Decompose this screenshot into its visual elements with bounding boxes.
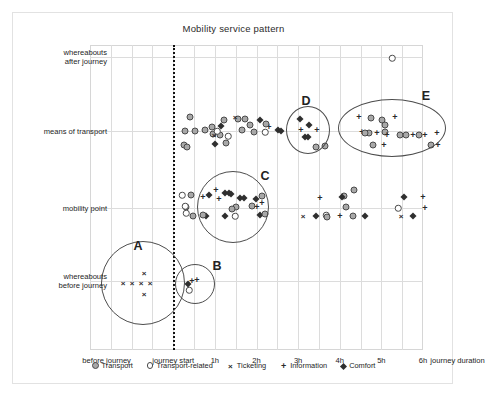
data-point-transport bbox=[351, 187, 358, 194]
y-axis-label-4: whereaboutsafter journey bbox=[0, 48, 107, 67]
legend-item-ticketing[interactable]: ×Ticketing bbox=[227, 361, 266, 371]
data-point-transport-related bbox=[225, 133, 232, 140]
data-point-transport bbox=[263, 121, 270, 128]
data-point-ticketing: × bbox=[232, 114, 239, 121]
legend-item-information[interactable]: +Information bbox=[280, 361, 327, 371]
data-point-information: + bbox=[317, 195, 324, 202]
data-point-transport bbox=[184, 144, 191, 151]
data-point-ticketing: × bbox=[398, 213, 405, 220]
legend-item-label: Information bbox=[290, 361, 327, 370]
cluster-outline-e bbox=[338, 99, 446, 157]
data-point-transport-related bbox=[182, 203, 189, 210]
data-point-transport bbox=[251, 129, 258, 136]
figure-container: Mobility service pattern ××+++++++++++++… bbox=[12, 12, 453, 384]
cluster-label-d: D bbox=[301, 94, 310, 108]
y-axis-label-line1: whereabouts bbox=[0, 272, 107, 281]
plot-area: ××++++++++++++++++++×++×++××××××++ ABCDE bbox=[90, 45, 423, 350]
chart-legend: TransportTransport-related×Ticketing+Inf… bbox=[13, 361, 454, 371]
cluster-label-b: B bbox=[212, 259, 221, 273]
data-point-transport-related bbox=[389, 55, 396, 62]
vertical-gridline bbox=[298, 45, 299, 350]
data-point-transport bbox=[188, 192, 195, 199]
cluster-outline-a bbox=[101, 241, 185, 325]
data-point-transport bbox=[92, 362, 99, 369]
y-axis-label-3: means of transport bbox=[0, 127, 107, 136]
data-point-transport bbox=[182, 128, 189, 135]
y-axis-label-line2: before journey bbox=[0, 281, 107, 290]
data-point-ticketing: × bbox=[227, 363, 234, 370]
horizontal-gridline bbox=[90, 57, 423, 58]
data-point-transport-related bbox=[147, 362, 154, 369]
y-axis-label-line1: mobility point bbox=[0, 204, 107, 213]
legend-item-label: Ticketing bbox=[237, 361, 266, 370]
legend-marker-icon bbox=[341, 362, 346, 371]
vertical-gridline bbox=[277, 45, 278, 350]
data-point-transport-related bbox=[183, 210, 190, 217]
data-point-transport bbox=[239, 127, 246, 134]
vertical-gridline bbox=[194, 45, 195, 350]
y-axis-label-line1: means of transport bbox=[0, 127, 107, 136]
y-axis-label-line1: whereabouts bbox=[0, 48, 107, 57]
data-point-information: + bbox=[337, 213, 344, 220]
legend-marker-icon: + bbox=[280, 362, 287, 371]
data-point-transport bbox=[223, 140, 230, 147]
data-point-transport bbox=[202, 127, 209, 134]
data-point-transport-related bbox=[179, 192, 186, 199]
data-point-transport bbox=[190, 213, 197, 220]
data-point-information: + bbox=[280, 363, 287, 370]
legend-item-comfort[interactable]: Comfort bbox=[341, 361, 375, 371]
cluster-outline-d bbox=[286, 106, 330, 154]
y-axis-label-1: whereaboutsbefore journey bbox=[0, 272, 107, 291]
cluster-label-e: E bbox=[422, 89, 430, 103]
vertical-gridline bbox=[381, 45, 382, 350]
legend-item-label: Transport-related bbox=[156, 361, 212, 370]
vertical-gridline bbox=[361, 45, 362, 350]
legend-marker-icon bbox=[92, 362, 99, 371]
data-point-transport bbox=[324, 214, 331, 221]
data-point-transport bbox=[187, 114, 194, 121]
cluster-outline-b bbox=[175, 264, 215, 304]
data-point-transport-related bbox=[262, 129, 269, 136]
data-point-ticketing: × bbox=[300, 213, 307, 220]
legend-item-label: Transport bbox=[102, 361, 133, 370]
data-point-ticketing: × bbox=[211, 132, 218, 139]
legend-marker-icon: × bbox=[227, 362, 234, 371]
data-point-transport bbox=[343, 204, 350, 211]
cluster-outline-c bbox=[197, 171, 269, 243]
cluster-label-a: A bbox=[133, 239, 142, 253]
legend-item-label: Comfort bbox=[349, 361, 375, 370]
y-axis-label-2: mobility point bbox=[0, 204, 107, 213]
legend-marker-icon bbox=[147, 362, 154, 371]
data-point-transport bbox=[192, 128, 199, 135]
legend-item-transport-related[interactable]: Transport-related bbox=[147, 361, 213, 371]
chart-title: Mobility service pattern bbox=[13, 23, 454, 34]
data-point-transport bbox=[350, 213, 357, 220]
y-axis-label-line2: after journey bbox=[0, 57, 107, 66]
data-point-transport bbox=[247, 122, 254, 129]
data-point-information: + bbox=[422, 205, 429, 212]
legend-item-transport[interactable]: Transport bbox=[92, 361, 133, 371]
data-point-transport-related bbox=[395, 205, 402, 212]
cluster-label-c: C bbox=[260, 169, 269, 183]
data-point-information: + bbox=[420, 194, 427, 201]
data-point-comfort bbox=[340, 363, 347, 370]
